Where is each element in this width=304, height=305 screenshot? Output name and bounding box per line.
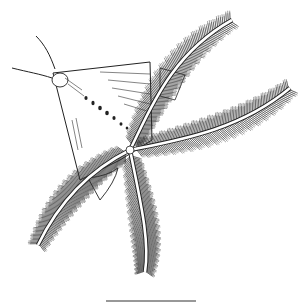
- plume-lobes: [28, 11, 298, 277]
- antennae: [12, 36, 55, 78]
- moth-drawing: [0, 0, 304, 305]
- illustration: [0, 0, 304, 305]
